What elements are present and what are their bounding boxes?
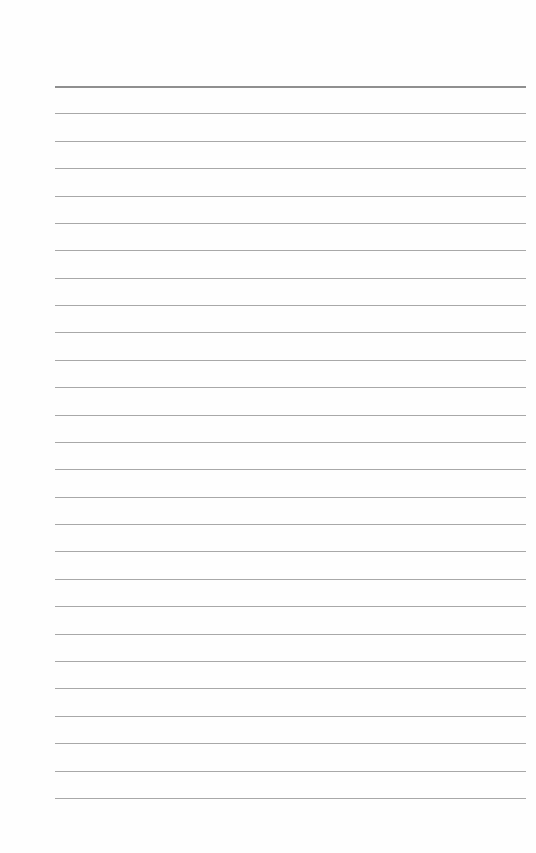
ruled-line [55,579,526,580]
ruled-line [55,332,526,333]
ruled-line [55,223,526,224]
ruled-line [55,497,526,498]
lined-paper-page [0,0,536,853]
ruled-line [55,141,526,142]
ruled-line [55,250,526,251]
ruled-line [55,716,526,717]
ruled-line [55,743,526,744]
ruled-line [55,196,526,197]
ruled-line [55,771,526,772]
ruled-line [55,798,526,799]
ruled-line [55,168,526,169]
ruled-line [55,305,526,306]
ruled-line [55,360,526,361]
ruled-line [55,442,526,443]
ruled-line [55,634,526,635]
ruled-line [55,551,526,552]
ruled-line [55,524,526,525]
ruled-line [55,278,526,279]
ruled-line [55,688,526,689]
ruled-line [55,415,526,416]
ruled-line [55,606,526,607]
ruled-line [55,387,526,388]
ruled-line [55,113,526,114]
ruled-line [55,661,526,662]
ruled-line-top [55,86,526,88]
ruled-line [55,469,526,470]
